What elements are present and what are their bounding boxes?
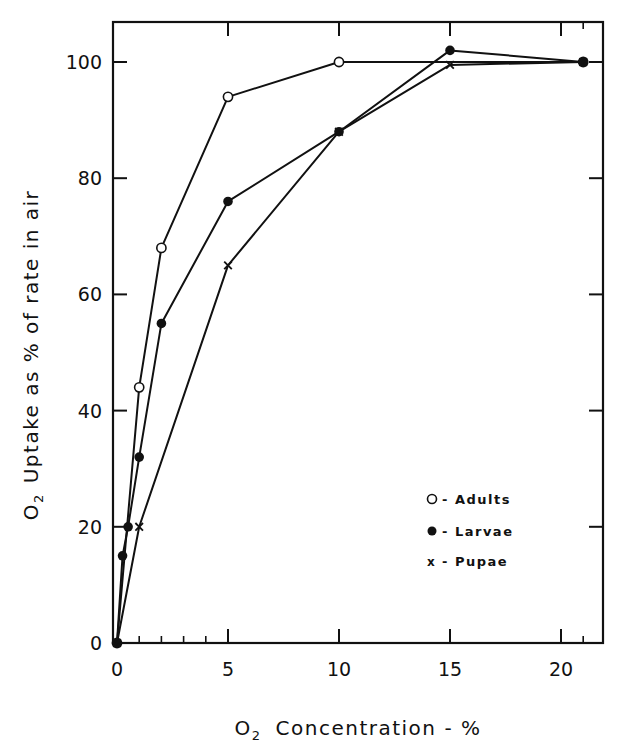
x-tick-label: 10 (327, 658, 351, 680)
plot-frame (113, 22, 603, 643)
x-axis-o2-subscript: 2 (252, 728, 262, 743)
y-tick-label: 80 (78, 167, 102, 189)
series-line-larvae (117, 50, 583, 643)
y-axis-title-text: Uptake as % of rate in air (19, 190, 43, 484)
legend-item-adults: - Adults (428, 492, 511, 507)
legend-label-adults: - Adults (442, 492, 511, 507)
open-circle-icon (428, 495, 437, 504)
data-point-adults (223, 92, 232, 101)
x-cross-icon: x (427, 555, 435, 569)
legend-item-pupae: x - Pupae (427, 554, 508, 569)
y-tick-label: 0 (90, 632, 102, 654)
x-axis-title-text: Concentration - % (276, 716, 482, 740)
y-tick-labels: 020406080100 (66, 51, 102, 654)
data-point-larvae (223, 197, 233, 207)
x-tick-label: 0 (111, 658, 123, 680)
y-tick-label: 40 (78, 400, 102, 422)
legend: - Adults - Larvae x - Pupae (427, 492, 513, 569)
y-tick-label: 20 (78, 516, 102, 538)
legend-label-larvae: - Larvae (442, 524, 513, 539)
data-point-adults (334, 57, 343, 66)
x-tick-labels: 05101520 (111, 658, 573, 680)
x-tick-label: 5 (222, 658, 234, 680)
data-point-larvae (123, 522, 133, 532)
series-markers (112, 46, 588, 648)
y-tick-label: 60 (78, 283, 102, 305)
series-lines (117, 50, 583, 643)
x-tick-label: 15 (438, 658, 462, 680)
legend-label-pupae: - Pupae (442, 554, 508, 569)
data-point-adults (135, 383, 144, 392)
data-point-larvae (445, 46, 455, 56)
x-axis-o2: O (235, 716, 252, 740)
plot-border (113, 22, 603, 643)
x-axis-title: O2Concentration - % (235, 716, 482, 743)
chart: 05101520 020406080100 - Adults - Larvae … (0, 0, 619, 755)
data-point-larvae (118, 551, 128, 561)
y-axis-o2: O (19, 503, 43, 520)
y-axis-title: O2Uptake as % of rate in air (19, 190, 46, 521)
series-line-adults (117, 62, 583, 643)
data-point-larvae (157, 319, 167, 329)
svg-text:O2Concentration - %: O2Concentration - % (235, 716, 482, 743)
data-point-adults (157, 243, 166, 252)
y-tick-label: 100 (66, 51, 102, 73)
data-point-larvae (134, 452, 144, 462)
axis-ticks (113, 22, 603, 643)
legend-item-larvae: - Larvae (428, 524, 514, 539)
series-line-pupae (117, 62, 583, 643)
y-axis-o2-subscript: 2 (31, 493, 46, 503)
filled-circle-icon (428, 527, 437, 536)
svg-text:O2Uptake as % of rate in air: O2Uptake as % of rate in air (19, 190, 46, 521)
x-tick-label: 20 (549, 658, 573, 680)
